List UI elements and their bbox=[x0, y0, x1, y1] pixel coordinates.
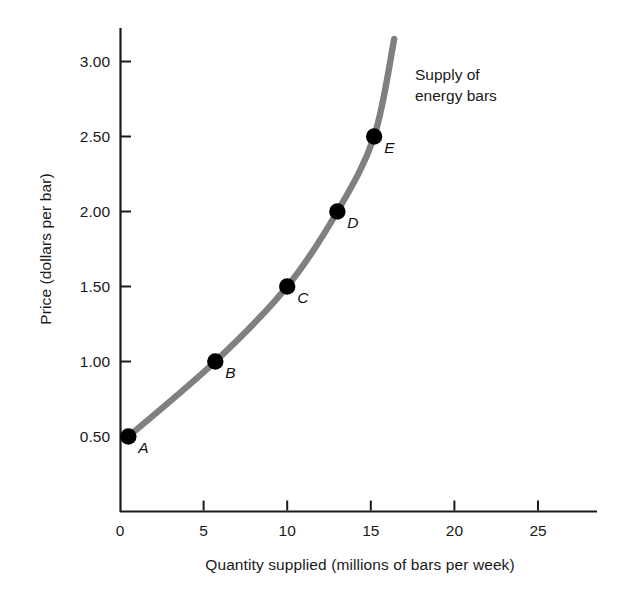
y-axis-tick-label: 2.50 bbox=[58, 128, 110, 146]
data-point-marker-e bbox=[366, 128, 382, 144]
y-axis-tick-label: 1.00 bbox=[58, 353, 110, 371]
x-axis-tick-label: 25 bbox=[518, 522, 558, 540]
x-axis-tick-label: 10 bbox=[267, 522, 307, 540]
data-point-label-e: E bbox=[384, 139, 394, 157]
data-point-markers bbox=[120, 128, 382, 444]
x-axis-tick-label: 15 bbox=[351, 522, 391, 540]
data-point-label-a: A bbox=[138, 439, 148, 457]
data-point-label-d: D bbox=[347, 214, 358, 232]
axes-group bbox=[120, 28, 597, 512]
supply-curve-line bbox=[128, 39, 394, 437]
x-axis-tick-label: 20 bbox=[434, 522, 474, 540]
plot-area bbox=[0, 0, 633, 601]
y-axis-tick-label: 3.00 bbox=[58, 53, 110, 71]
x-axis-tick-label: 0 bbox=[100, 522, 140, 540]
data-point-marker-d bbox=[329, 203, 345, 219]
data-point-marker-a bbox=[120, 428, 136, 444]
y-axis-tick-label: 0.50 bbox=[58, 428, 110, 446]
data-point-label-c: C bbox=[297, 289, 308, 307]
y-axis-tick-label: 1.50 bbox=[58, 278, 110, 296]
y-axis-tick-label: 2.00 bbox=[58, 203, 110, 221]
x-axis-tick-label: 5 bbox=[184, 522, 224, 540]
data-point-label-b: B bbox=[225, 364, 235, 382]
data-point-marker-c bbox=[279, 278, 295, 294]
x-axis-ticks bbox=[204, 501, 538, 511]
supply-curve-figure: Price (dollars per bar) Quantity supplie… bbox=[0, 0, 633, 601]
y-axis-ticks bbox=[121, 62, 131, 437]
data-point-marker-b bbox=[207, 353, 223, 369]
